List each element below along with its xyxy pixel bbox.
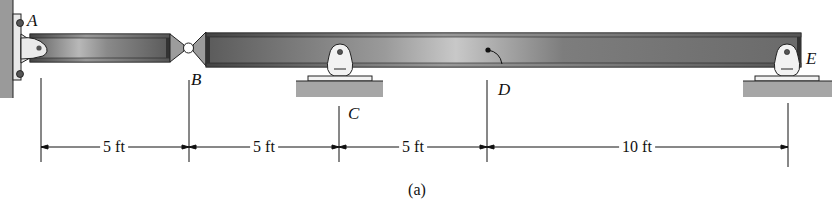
figure-caption: (a)	[408, 181, 426, 199]
hinge-B	[170, 32, 206, 66]
dimension-label-CD: 5 ft	[399, 139, 427, 155]
dimension-label-DE: 10 ft	[619, 139, 655, 155]
beam-diagram: A B C D E 5 ft 5 ft 5 ft 10 ft (a)	[0, 0, 835, 211]
label-point-B: B	[191, 71, 201, 88]
label-point-A: A	[27, 12, 37, 29]
beam-drawing	[0, 0, 835, 211]
dimension-label-BC: 5 ft	[250, 139, 278, 155]
label-point-D: D	[498, 81, 510, 98]
dimension-label-AB: 5 ft	[100, 139, 128, 155]
label-point-E: E	[806, 50, 816, 67]
label-point-C: C	[348, 105, 359, 122]
beam-segment-BE	[206, 33, 801, 67]
beam-segment-AB	[21, 34, 170, 62]
